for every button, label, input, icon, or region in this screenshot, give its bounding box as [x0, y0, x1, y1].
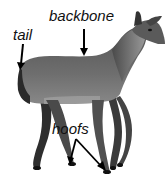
label-tail: tail: [13, 27, 32, 42]
backbone-arrow: [80, 29, 88, 56]
labeled-deer-diagram: backbone tail hoofs: [0, 0, 165, 180]
hooves: [33, 162, 123, 174]
label-backbone: backbone: [49, 8, 114, 23]
label-hoofs: hoofs: [52, 121, 89, 136]
